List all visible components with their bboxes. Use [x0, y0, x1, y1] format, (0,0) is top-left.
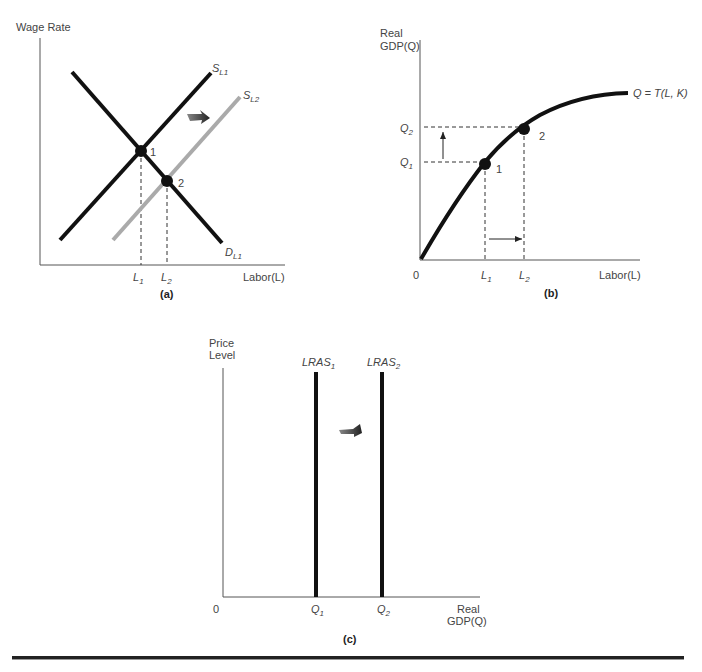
equilibrium-point-1: [135, 145, 147, 157]
panel-caption-b: (b): [544, 287, 558, 299]
x-axis-label-line2: GDP(Q): [447, 615, 487, 627]
x-axis-label-line1: Real: [457, 603, 480, 615]
curve-label-sl2: SL2: [243, 89, 260, 104]
origin-label: 0: [413, 269, 419, 281]
y-axis-label: Wage Rate: [16, 21, 71, 33]
figure-canvas: Wage Rate 1 2 SL1 SL2 DL1 L1 L2 Labor(L)…: [0, 0, 702, 672]
point-label-1: 1: [150, 146, 156, 158]
panel-caption-c: (c): [343, 633, 357, 645]
supply-curve-sl2: [113, 97, 240, 240]
y-tick-q2: Q2: [400, 122, 414, 137]
point-label-2: 2: [178, 177, 184, 189]
point-label-2: 2: [539, 130, 545, 142]
x-axis-label: Labor(L): [243, 271, 285, 283]
curve-label-production-function: Q = T(L, K): [633, 87, 688, 99]
shift-right-arrow-icon: [339, 424, 362, 437]
y-axis-label-line2: Level: [209, 349, 235, 361]
panel-caption-a: (a): [160, 288, 174, 300]
origin-label: 0: [213, 603, 219, 615]
point-label-1: 1: [496, 163, 502, 175]
curve-label-lras2: LRAS2: [367, 356, 401, 371]
point-2: [518, 123, 530, 135]
x-tick-q1: Q1: [311, 603, 324, 618]
curve-label-lras1: LRAS1: [302, 356, 335, 371]
demand-curve-dl1: [72, 72, 222, 243]
y-axis-label-line2: GDP(Q): [380, 40, 420, 52]
shift-right-arrow-icon: [187, 110, 210, 124]
panel-a-labor-market: Wage Rate 1 2 SL1 SL2 DL1 L1 L2 Labor(L)…: [16, 21, 285, 300]
x-tick-l1: L1: [133, 271, 144, 286]
point-1: [479, 158, 491, 170]
curve-label-sl1: SL1: [212, 62, 228, 77]
y-axis-label-line1: Real: [380, 27, 403, 39]
y-tick-q1: Q1: [400, 156, 413, 171]
x-axis-label: Labor(L): [599, 269, 641, 281]
x-tick-l2: L2: [161, 271, 172, 286]
panel-b-production-function: Real GDP(Q) 1 2 Q = T(L, K) Q2 Q1 0 L1 L…: [380, 27, 688, 299]
y-axis-label-line1: Price: [209, 337, 234, 349]
equilibrium-point-2: [161, 175, 173, 187]
x-tick-q2: Q2: [377, 603, 391, 618]
bottom-rule: [12, 656, 684, 659]
x-tick-l1: L1: [481, 269, 492, 284]
panel-c-lras: Price Level LRAS1 LRAS2 0 Q1 Q2 Real GDP…: [209, 337, 487, 645]
bottom-rule-shadow: [12, 659, 684, 660]
curve-label-dl1: DL1: [225, 246, 242, 261]
x-tick-l2: L2: [519, 269, 530, 284]
